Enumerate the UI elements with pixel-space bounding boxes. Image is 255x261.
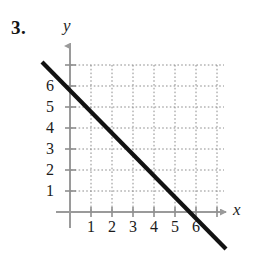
x-tick-label-1: 1 xyxy=(82,218,100,236)
x-tick-label-5: 5 xyxy=(166,218,184,236)
y-tick-label-6: 6 xyxy=(38,77,54,95)
grid-vertical-lines xyxy=(91,65,217,212)
y-tick-label-5: 5 xyxy=(38,98,54,116)
y-tick-label-1: 1 xyxy=(38,182,54,200)
figure-root: 3. y x xyxy=(0,0,255,261)
y-tick-label-4: 4 xyxy=(38,119,54,137)
y-tick-label-2: 2 xyxy=(38,161,54,179)
x-tick-label-2: 2 xyxy=(103,218,121,236)
x-tick-label-3: 3 xyxy=(124,218,142,236)
y-tick-label-3: 3 xyxy=(38,140,54,158)
x-tick-label-6: 6 xyxy=(187,218,205,236)
x-tick-label-4: 4 xyxy=(145,218,163,236)
